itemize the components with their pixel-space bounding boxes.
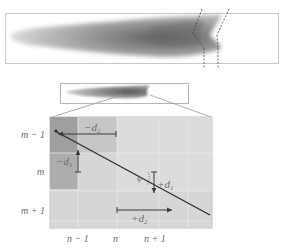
thumbnail-image (52, 84, 211, 118)
row-label-m: m (37, 166, 44, 177)
diagram-canvas: −d2 −d1 +d1 +d2 φ m − 1 m m + 1 n − 1 n … (0, 0, 284, 248)
col-label-n-plus-1: n + 1 (144, 233, 166, 244)
row-label-m-plus-1: m + 1 (21, 205, 45, 216)
row-label-m-minus-1: m − 1 (21, 129, 45, 140)
label-phi: φ (137, 173, 142, 183)
plume-image (6, 9, 279, 68)
col-label-n: n (113, 233, 118, 244)
diag-start-dot (54, 129, 57, 132)
col-label-n-minus-1: n − 1 (67, 233, 89, 244)
grid-cell-dark-top (50, 117, 78, 153)
